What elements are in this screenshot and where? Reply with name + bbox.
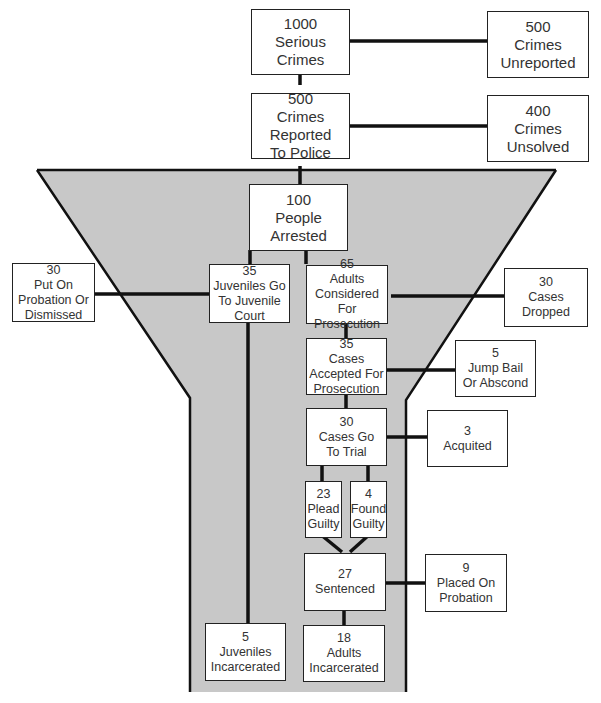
node-label: Crimes — [277, 51, 325, 69]
node-label: Plead — [308, 502, 340, 517]
node-label: Probation Or — [18, 293, 89, 308]
node-label: Cases Go — [319, 430, 375, 445]
node-count: 23 — [317, 487, 331, 502]
node-label: Serious — [275, 33, 326, 51]
node-label: Or Abscond — [463, 376, 528, 391]
node-label: Found — [351, 502, 386, 517]
node-count: 30 — [340, 415, 354, 430]
node-count: 5 — [242, 630, 249, 645]
node-count: 65 — [340, 257, 354, 272]
node-label: Sentenced — [315, 582, 375, 597]
node-adults-considered: 65 Adults Considered For Prosecution — [306, 265, 388, 324]
node-people-arrested: 100 People Arrested — [249, 184, 348, 251]
node-label: Cases — [329, 352, 364, 367]
node-label: Put On — [34, 278, 73, 293]
node-count: 30 — [47, 263, 61, 278]
node-count: 4 — [365, 487, 372, 502]
node-label: Crimes — [514, 36, 562, 54]
node-crimes-unreported: 500 Crimes Unreported — [487, 11, 589, 78]
node-label: Adults — [330, 272, 365, 287]
node-cases-accepted: 35 Cases Accepted For Prosecution — [306, 338, 387, 395]
node-crimes-reported: 500 Crimes Reported To Police — [251, 93, 350, 159]
node-placed-on-probation: 9 Placed On Probation — [425, 554, 507, 612]
node-label: Crimes Reported — [252, 108, 349, 144]
node-label: Court — [234, 309, 265, 324]
node-count: 5 — [492, 346, 499, 361]
node-label: Juveniles Go — [213, 279, 285, 294]
node-label: To Juvenile — [218, 294, 281, 309]
node-sentenced: 27 Sentenced — [304, 553, 386, 611]
node-label: Guilty — [353, 517, 385, 532]
node-juvenile-court: 35 Juveniles Go To Juvenile Court — [209, 264, 290, 323]
node-label: Prosecution — [314, 317, 380, 332]
node-count: 18 — [337, 631, 351, 646]
node-label: Juveniles — [219, 645, 271, 660]
node-count: 400 — [525, 102, 550, 120]
node-label: Cases — [528, 290, 563, 305]
node-label: To Police — [270, 144, 331, 162]
node-label: Prosecution — [313, 382, 379, 397]
node-label: Incarcerated — [309, 661, 378, 676]
node-serious-crimes: 1000 Serious Crimes — [251, 9, 350, 75]
node-label: Crimes — [514, 120, 562, 138]
node-count: 1000 — [284, 15, 317, 33]
node-juveniles-incarcerated: 5 Juveniles Incarcerated — [205, 623, 286, 681]
node-label: Dropped — [522, 305, 570, 320]
node-probation-or-dismissed: 30 Put On Probation Or Dismissed — [12, 263, 95, 322]
node-crimes-unsolved: 400 Crimes Unsolved — [487, 95, 589, 162]
node-acquitted: 3 Acquited — [427, 410, 508, 467]
node-label: People — [275, 209, 322, 227]
node-count: 27 — [338, 567, 352, 582]
node-label: To Trial — [326, 445, 366, 460]
node-plead-guilty: 23 Plead Guilty — [305, 481, 342, 538]
node-count: 3 — [464, 424, 471, 439]
node-label: Placed On — [437, 576, 495, 591]
node-jump-bail: 5 Jump Bail Or Abscond — [455, 340, 536, 397]
node-label: Probation — [439, 591, 493, 606]
node-label: Arrested — [270, 227, 327, 245]
node-label: Acquited — [443, 439, 492, 454]
node-count: 500 — [525, 18, 550, 36]
node-count: 30 — [539, 275, 553, 290]
node-count: 100 — [286, 191, 311, 209]
node-label: Dismissed — [25, 308, 83, 323]
node-found-guilty: 4 Found Guilty — [350, 481, 387, 538]
node-label: Adults — [327, 646, 362, 661]
node-label: Guilty — [308, 517, 340, 532]
node-adults-incarcerated: 18 Adults Incarcerated — [303, 625, 385, 682]
node-label: Considered For — [307, 287, 387, 317]
node-count: 500 — [288, 90, 313, 108]
node-count: 9 — [463, 561, 470, 576]
node-cases-dropped: 30 Cases Dropped — [504, 268, 588, 327]
node-label: Jump Bail — [468, 361, 523, 376]
node-label: Unsolved — [507, 138, 570, 156]
node-count: 35 — [340, 337, 354, 352]
node-label: Incarcerated — [211, 660, 280, 675]
node-label: Accepted For — [309, 367, 383, 382]
node-cases-go-to-trial: 30 Cases Go To Trial — [306, 408, 387, 466]
node-count: 35 — [243, 264, 257, 279]
node-label: Unreported — [500, 54, 575, 72]
